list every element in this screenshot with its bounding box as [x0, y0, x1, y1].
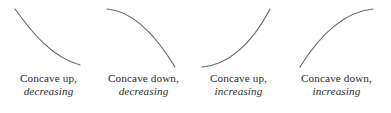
curve-path-concave-down-increasing — [300, 9, 373, 67]
concavity-figure: Concave up, decreasing Concave down, dec… — [0, 0, 391, 113]
caption-1: Concave up, decreasing — [0, 72, 97, 97]
caption-3-line1: Concave up, — [190, 72, 287, 85]
curve-path-concave-up-decreasing — [15, 9, 80, 65]
caption-3-line2: increasing — [190, 85, 287, 98]
caption-4-line1: Concave down, — [288, 72, 385, 85]
caption-4-line2: increasing — [288, 85, 385, 98]
concavity-panel-4: Concave down, increasing — [288, 0, 385, 113]
caption-1-line1: Concave up, — [0, 72, 97, 85]
concavity-panel-3: Concave up, increasing — [190, 0, 287, 113]
caption-2-line1: Concave down, — [95, 72, 192, 85]
caption-3: Concave up, increasing — [190, 72, 287, 97]
concavity-panel-1: Concave up, decreasing — [0, 0, 97, 113]
curve-plot-3 — [190, 0, 287, 72]
caption-2-line2: decreasing — [95, 85, 192, 98]
curve-path-concave-up-increasing — [202, 9, 270, 67]
concavity-panel-2: Concave down, decreasing — [95, 0, 192, 113]
curve-plot-1 — [0, 0, 97, 72]
curve-plot-4 — [288, 0, 385, 72]
caption-2: Concave down, decreasing — [95, 72, 192, 97]
curve-plot-2 — [95, 0, 192, 72]
caption-4: Concave down, increasing — [288, 72, 385, 97]
curve-path-concave-down-decreasing — [107, 9, 175, 67]
caption-1-line2: decreasing — [0, 85, 97, 98]
